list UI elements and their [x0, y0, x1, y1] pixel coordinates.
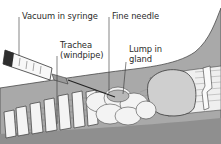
label-lump-line1: Lump in	[129, 44, 162, 54]
fine-needle-aspiration-diagram: Vacuum in syringe Fine needle Trachea (w…	[0, 0, 221, 144]
label-trachea: Trachea (windpipe)	[60, 40, 103, 60]
illustration	[0, 0, 221, 144]
label-trachea-line1: Trachea	[60, 40, 103, 50]
lump	[107, 90, 129, 102]
label-lump-line2: gland	[129, 54, 162, 64]
syringe-plunger	[3, 50, 14, 67]
label-trachea-line2: (windpipe)	[60, 50, 103, 60]
label-fine-needle: Fine needle	[112, 11, 159, 21]
label-lump-in-gland: Lump in gland	[129, 44, 162, 64]
label-vacuum-in-syringe: Vacuum in syringe	[22, 11, 98, 21]
